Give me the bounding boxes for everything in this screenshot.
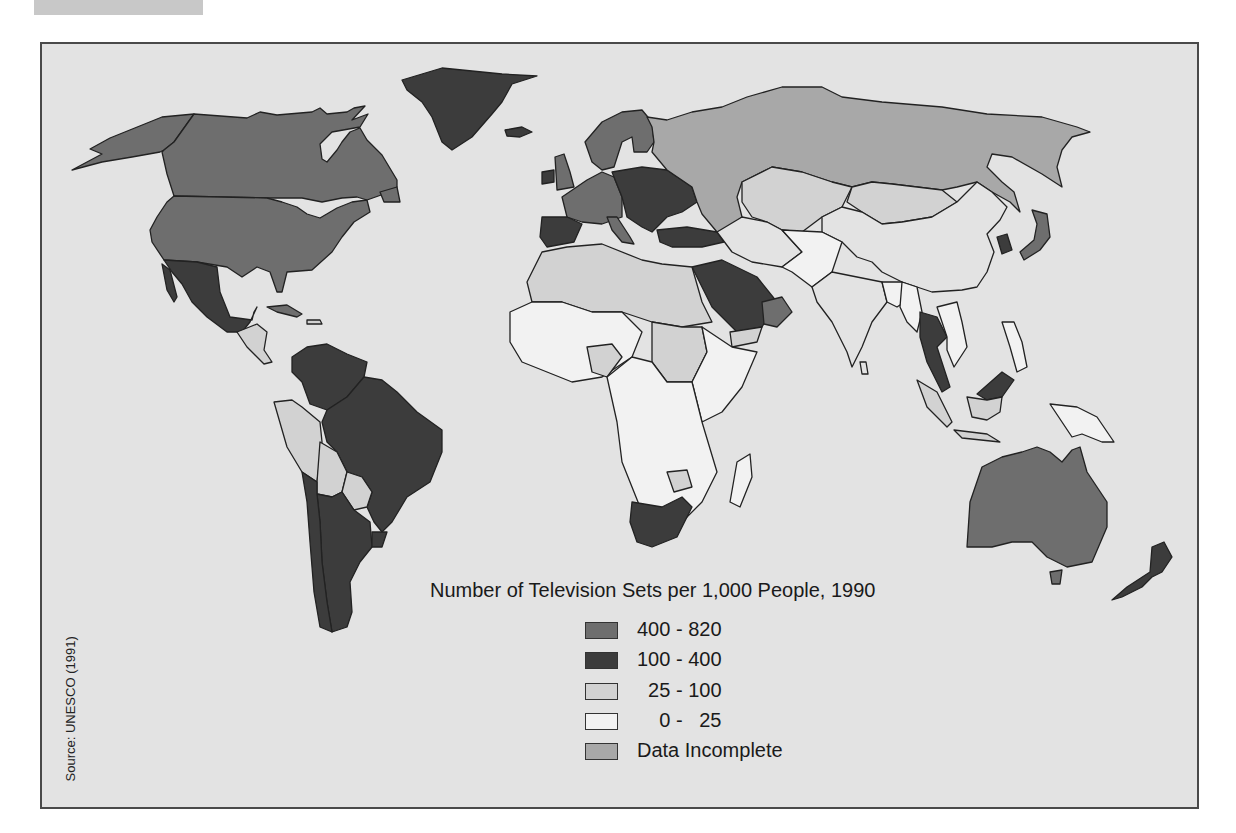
region-greenland <box>402 68 537 150</box>
source-note: Source: UNESCO (1991) <box>63 622 78 782</box>
region-scandinavia <box>585 110 654 170</box>
region-uk <box>555 154 574 190</box>
legend-label: 400 - 820 <box>637 618 722 641</box>
region-japan <box>1020 210 1050 260</box>
region-south-korea <box>997 234 1012 254</box>
region-philippines <box>1002 322 1027 372</box>
region-spain-portugal <box>540 217 582 247</box>
region-madagascar <box>730 454 752 507</box>
header-tab-strip <box>34 0 203 15</box>
map-frame: Source: UNESCO (1991) Number of Televisi… <box>40 42 1199 809</box>
region-new-zealand <box>1112 542 1172 600</box>
region-uruguay <box>372 532 387 547</box>
region-malaysia-borneo <box>977 372 1014 400</box>
legend-label: 100 - 400 <box>637 648 722 671</box>
region-italy <box>607 217 634 244</box>
legend-label: 0 - 25 <box>637 709 721 732</box>
legend-swatch <box>585 713 618 730</box>
region-peru <box>274 400 322 482</box>
region-sri-lanka <box>860 362 868 374</box>
legend-title: Number of Television Sets per 1,000 Peop… <box>430 579 875 602</box>
region-cuba <box>267 305 302 317</box>
region-indonesia-borneo <box>967 397 1002 420</box>
legend-swatch <box>585 652 618 669</box>
region-tasmania <box>1050 570 1062 584</box>
region-india <box>812 272 887 367</box>
region-ireland <box>542 170 554 184</box>
legend-swatch <box>585 743 618 760</box>
region-papua <box>1050 404 1114 442</box>
legend-label: Data Incomplete <box>637 739 783 762</box>
world-map <box>42 44 1199 809</box>
region-central-america <box>237 324 272 364</box>
region-canada <box>162 106 397 202</box>
region-turkey <box>657 227 724 247</box>
region-myanmar <box>900 282 922 332</box>
legend-swatch <box>585 683 618 700</box>
region-iceland <box>505 127 532 137</box>
legend-label: 25 - 100 <box>637 679 722 702</box>
region-australia <box>967 447 1107 567</box>
legend-swatch <box>585 622 618 639</box>
region-oman <box>762 297 792 327</box>
region-java <box>954 430 1000 442</box>
region-hispaniola <box>307 320 322 324</box>
